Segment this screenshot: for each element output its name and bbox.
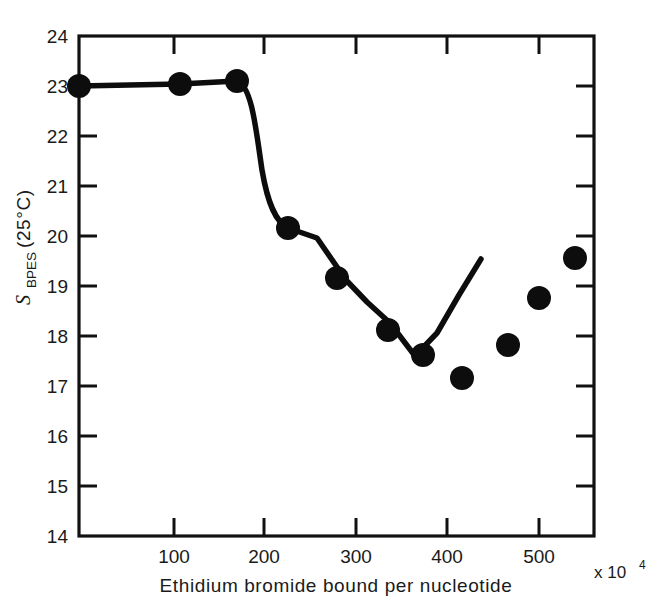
y-tick-label: 20: [47, 226, 68, 247]
x-axis-multiplier: x 10 4: [594, 558, 646, 582]
sedimentation-coefficient-chart: 24 23 22 21 20 19 18 17 16 15 14 100 200…: [0, 0, 662, 601]
x-tick-label: 400: [431, 546, 463, 567]
data-point: [67, 74, 91, 98]
y-tick-label: 15: [47, 476, 68, 497]
x-tick-label: 300: [340, 546, 372, 567]
x-axis-multiplier-base: x 10: [594, 563, 626, 582]
data-point: [496, 333, 520, 357]
x-tick-label: 200: [248, 546, 280, 567]
data-point: [276, 216, 300, 240]
x-axis-title: Ethidium bromide bound per nucleotide: [160, 575, 513, 596]
y-tick-label: 16: [47, 426, 68, 447]
data-point: [411, 343, 435, 367]
data-point: [527, 286, 551, 310]
y-tick-label: 21: [47, 176, 68, 197]
y-axis-tick-labels: 24 23 22 21 20 19 18 17 16 15 14: [47, 26, 69, 547]
data-point: [563, 246, 587, 270]
x-tick-label: 100: [158, 546, 190, 567]
y-tick-label: 14: [47, 526, 69, 547]
data-point: [225, 69, 249, 93]
x-axis-tick-labels: 100 200 300 400 500: [158, 546, 555, 567]
y-tick-label: 19: [47, 276, 68, 297]
x-axis-multiplier-exponent: 4: [639, 558, 646, 572]
figure-panel: 24 23 22 21 20 19 18 17 16 15 14 100 200…: [0, 0, 662, 601]
data-point: [325, 266, 349, 290]
x-tick-label: 500: [523, 546, 555, 567]
y-tick-label: 24: [47, 26, 69, 47]
y-axis-title: S BPES (25°C): [12, 189, 39, 305]
y-axis-title-symbol: S: [12, 295, 34, 305]
data-point: [450, 366, 474, 390]
data-point: [168, 72, 192, 96]
data-point: [376, 318, 400, 342]
y-tick-label: 17: [47, 376, 68, 397]
y-axis-title-suffix: (25°C): [13, 189, 34, 248]
y-tick-label: 18: [47, 326, 68, 347]
y-tick-label: 23: [47, 76, 68, 97]
svg-text:S: S: [12, 295, 34, 305]
y-tick-label: 22: [47, 126, 68, 147]
y-axis-title-subscript: BPES: [24, 252, 39, 288]
